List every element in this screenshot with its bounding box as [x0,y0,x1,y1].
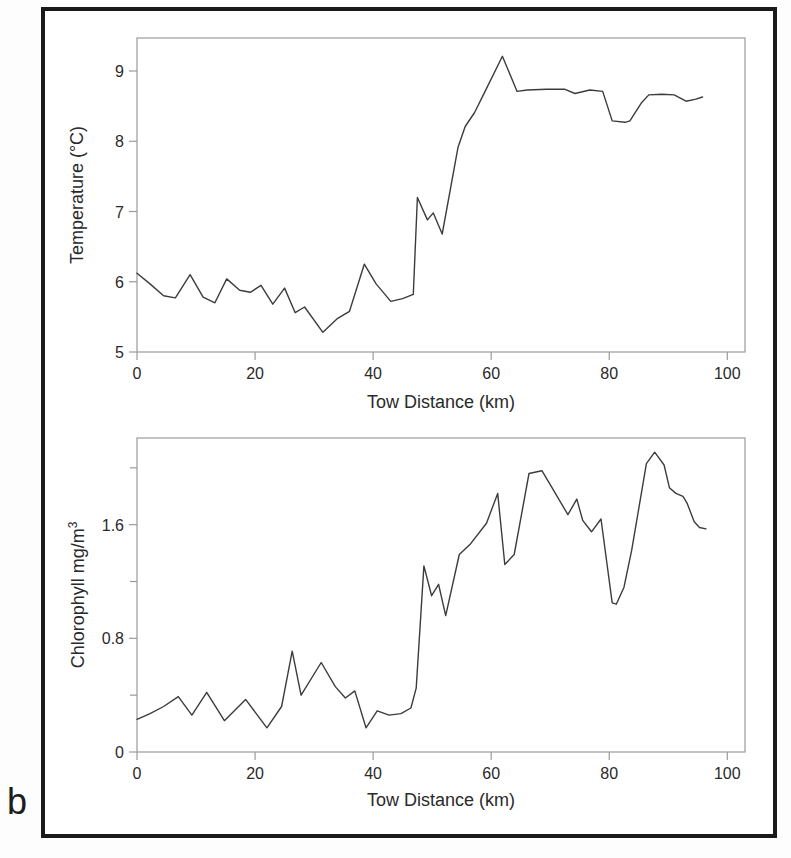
x-tick-label: 0 [133,765,142,782]
x-tick-label: 100 [714,365,741,382]
chlorophyll-y-axis-title-superscript: 3 [66,522,80,529]
chlorophyll-y-axis-title-text: Chlorophyll mg/m [68,528,88,668]
y-tick-label: 0.8 [102,630,124,647]
x-tick-label: 100 [714,765,741,782]
chlorophyll-chart: 02040608010000.81.6 [102,438,745,782]
x-tick-label: 40 [364,765,382,782]
temperature-y-axis-title: Temperature (°C) [67,126,88,264]
y-tick-label: 7 [115,204,124,221]
y-tick-label: 8 [115,133,124,150]
x-tick-label: 60 [482,365,500,382]
x-tick-label: 40 [364,365,382,382]
figure: 0204060801005678902040608010000.81.6 Tow… [0,0,791,858]
panel-label: b [7,784,27,820]
x-tick-label: 80 [600,765,618,782]
y-tick-label: 9 [115,63,124,80]
chlorophyll-y-axis-title: Chlorophyll mg/m3 [66,522,89,669]
chlorophyll-x-axis-title: Tow Distance (km) [137,790,745,811]
charts-canvas: 0204060801005678902040608010000.81.6 [0,0,791,858]
temperature-series-line [137,56,703,332]
x-tick-label: 60 [482,765,500,782]
x-tick-label: 20 [246,765,264,782]
temperature-chart: 02040608010056789 [115,38,745,382]
x-tick-label: 0 [133,365,142,382]
y-tick-label: 6 [115,274,124,291]
y-tick-label: 0 [115,744,124,761]
y-tick-label: 1.6 [102,517,124,534]
x-tick-label: 20 [246,365,264,382]
x-tick-label: 80 [600,365,618,382]
y-tick-label: 5 [115,344,124,361]
temperature-x-axis-title: Tow Distance (km) [137,392,745,413]
plot-frame [137,38,745,352]
chlorophyll-series-line [137,452,706,728]
